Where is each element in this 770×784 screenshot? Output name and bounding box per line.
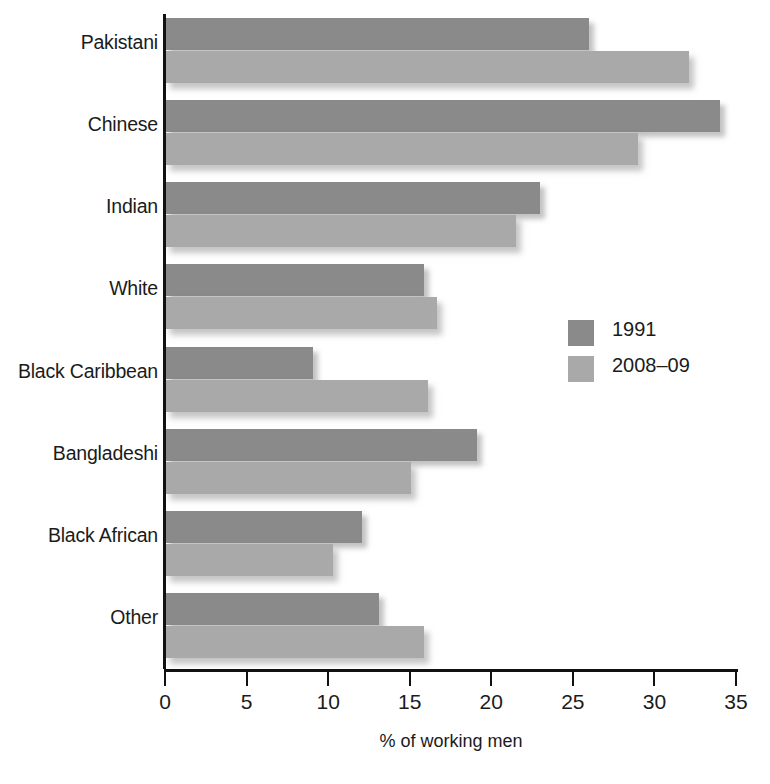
x-axis-tick bbox=[246, 672, 248, 686]
bar-2008-09 bbox=[165, 51, 689, 83]
bar-2008-09 bbox=[165, 544, 333, 576]
x-axis-tick-label: 15 bbox=[388, 690, 432, 714]
category-row: Chinese bbox=[0, 96, 770, 176]
x-axis-tick bbox=[327, 672, 329, 686]
bar-1991 bbox=[165, 264, 424, 296]
x-axis-tick-label: 30 bbox=[632, 690, 676, 714]
bar-2008-09 bbox=[165, 215, 516, 247]
legend-swatch-icon bbox=[568, 320, 594, 346]
category-label: White bbox=[0, 277, 158, 300]
category-row: Indian bbox=[0, 178, 770, 258]
category-row: Pakistani bbox=[0, 14, 770, 94]
category-row: Black African bbox=[0, 507, 770, 587]
legend-label: 1991 bbox=[612, 318, 657, 341]
plot-area: Pakistani Chinese Indian White Black Car… bbox=[0, 0, 770, 784]
x-axis-tick-label: 35 bbox=[714, 690, 758, 714]
x-axis-tick bbox=[572, 672, 574, 686]
x-axis-line bbox=[164, 669, 738, 672]
x-axis-title: % of working men bbox=[164, 731, 738, 752]
bar-1991 bbox=[165, 18, 589, 50]
x-axis-tick-label: 0 bbox=[143, 690, 187, 714]
bar-2008-09 bbox=[165, 297, 437, 329]
bar-1991 bbox=[165, 593, 379, 625]
bar-1991 bbox=[165, 429, 477, 461]
x-axis-tick-label: 10 bbox=[306, 690, 350, 714]
legend-label: 2008–09 bbox=[612, 354, 690, 377]
category-label: Pakistani bbox=[0, 31, 158, 54]
bar-1991 bbox=[165, 511, 362, 543]
x-axis-tick-label: 5 bbox=[225, 690, 269, 714]
category-row: Other bbox=[0, 589, 770, 669]
category-label: Black African bbox=[0, 524, 158, 547]
x-axis-tick bbox=[490, 672, 492, 686]
x-axis-tick bbox=[653, 672, 655, 686]
x-axis-tick-label: 20 bbox=[469, 690, 513, 714]
bar-1991 bbox=[165, 347, 313, 379]
bar-2008-09 bbox=[165, 133, 638, 165]
x-axis-tick bbox=[164, 672, 166, 686]
category-label: Chinese bbox=[0, 113, 158, 136]
x-axis-tick bbox=[409, 672, 411, 686]
x-axis-tick-label: 25 bbox=[551, 690, 595, 714]
category-label: Black Caribbean bbox=[0, 360, 158, 383]
x-axis-tick bbox=[735, 672, 737, 686]
category-label: Indian bbox=[0, 195, 158, 218]
category-label: Other bbox=[0, 606, 158, 629]
bar-chart: Pakistani Chinese Indian White Black Car… bbox=[0, 0, 770, 784]
bar-1991 bbox=[165, 100, 720, 132]
bar-2008-09 bbox=[165, 462, 411, 494]
legend-swatch-icon bbox=[568, 356, 594, 382]
category-label: Bangladeshi bbox=[0, 442, 158, 465]
category-row: Bangladeshi bbox=[0, 425, 770, 505]
bar-2008-09 bbox=[165, 626, 424, 658]
y-axis-line bbox=[163, 14, 166, 669]
bar-2008-09 bbox=[165, 380, 428, 412]
bar-1991 bbox=[165, 182, 540, 214]
